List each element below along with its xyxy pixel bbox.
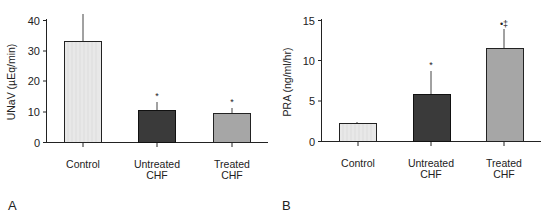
chart-b-category-treated-line2: CHF xyxy=(493,168,515,180)
chart-b-tick-5: 5 xyxy=(309,95,315,107)
chart-b-sig-untreated: * xyxy=(429,60,433,70)
chart-a-y-label: UNaV (µEq/min) xyxy=(5,44,17,121)
chart-a-category-untreated-line2: CHF xyxy=(146,169,168,181)
chart-b-category-control: Control xyxy=(341,157,375,169)
chart-b-bar-treated xyxy=(487,49,524,142)
chart-a-tick-40: 40 xyxy=(28,15,40,27)
figure: 0 10 20 30 40 UNaV (µEq/min) * * Contro xyxy=(0,0,547,219)
panel-label-a: A xyxy=(8,198,17,213)
chart-b-tick-10: 10 xyxy=(303,55,315,67)
chart-b-y-ticks: 0 5 10 15 xyxy=(303,15,321,148)
chart-a-sig-treated: * xyxy=(230,97,234,107)
chart-a-bar-treated xyxy=(214,114,251,143)
chart-b-category-untreated-line2: CHF xyxy=(420,168,442,180)
chart-b-bar-untreated xyxy=(414,95,451,142)
chart-a-category-treated-line2: CHF xyxy=(221,169,243,181)
chart-a-tick-30: 30 xyxy=(28,45,40,57)
chart-a: 0 10 20 30 40 UNaV (µEq/min) * * Contro xyxy=(5,14,268,213)
chart-a-tick-0: 0 xyxy=(34,137,40,149)
chart-a-sig-untreated: * xyxy=(155,91,159,101)
chart-b-y-label: PRA (ng/ml/hr) xyxy=(281,48,293,117)
panel-label-b: B xyxy=(282,198,291,213)
chart-b-tick-0: 0 xyxy=(309,136,315,148)
chart-a-bar-untreated xyxy=(139,111,176,143)
chart-a-tick-10: 10 xyxy=(28,106,40,118)
chart-b: 0 5 10 15 PRA (ng/ml/hr) * •‡ Control Un… xyxy=(281,15,541,214)
chart-b-sig-treated: •‡ xyxy=(500,19,508,29)
chart-a-tick-20: 20 xyxy=(28,75,40,87)
chart-a-category-control: Control xyxy=(66,158,100,170)
chart-b-tick-15: 15 xyxy=(303,15,315,27)
chart-a-y-ticks: 0 10 20 30 40 xyxy=(28,15,46,149)
